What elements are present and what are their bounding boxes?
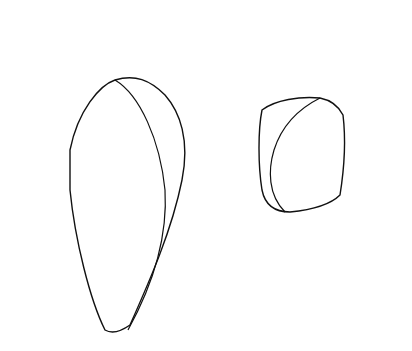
- integral-protein-small: [259, 98, 344, 213]
- membrane-diagram: [0, 0, 412, 351]
- integral-protein-large: [70, 78, 185, 332]
